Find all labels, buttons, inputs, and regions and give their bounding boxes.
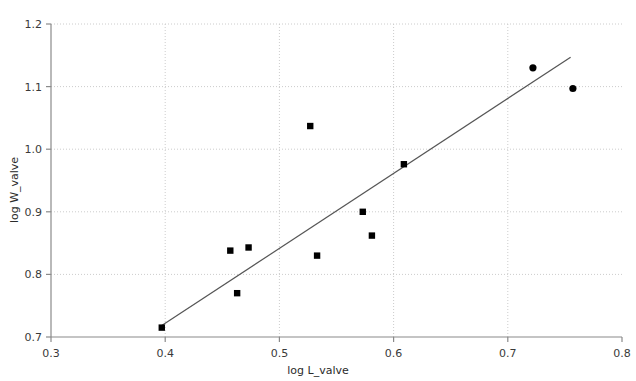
y-axis-title: log W_valve — [8, 157, 21, 223]
y-tick-label: 0.9 — [25, 206, 43, 219]
axis-tick-labels: 0.70.80.91.01.11.20.30.40.50.60.70.8 — [25, 18, 631, 360]
y-tick-label: 1.2 — [25, 18, 43, 31]
data-point-square — [401, 161, 407, 167]
data-point-square — [360, 209, 366, 215]
x-tick-label: 0.4 — [156, 347, 174, 360]
x-tick-label: 0.5 — [271, 347, 289, 360]
data-point-square — [234, 290, 240, 296]
data-point-square — [314, 252, 320, 258]
data-point-circle — [569, 85, 576, 92]
trend-line — [161, 57, 571, 326]
trend-line-segment — [161, 57, 571, 326]
x-tick-label: 0.6 — [385, 347, 403, 360]
data-points — [159, 64, 577, 331]
x-tick-label: 0.3 — [42, 347, 60, 360]
axis-lines — [51, 24, 622, 337]
x-tick-label: 0.7 — [499, 347, 517, 360]
axis-ticks — [46, 24, 622, 342]
y-tick-label: 0.7 — [25, 331, 43, 344]
y-tick-label: 1.0 — [25, 143, 43, 156]
y-tick-label: 1.1 — [25, 81, 43, 94]
grid-lines — [51, 24, 622, 337]
data-point-circle — [529, 64, 536, 71]
plot-area: 0.70.80.91.01.11.20.30.40.50.60.70.8 log… — [0, 0, 636, 381]
data-point-square — [159, 324, 165, 330]
y-tick-label: 0.8 — [25, 268, 43, 281]
data-point-square — [245, 244, 251, 250]
x-tick-label: 0.8 — [613, 347, 631, 360]
x-axis-title: log L_valve — [287, 364, 349, 377]
data-point-square — [307, 123, 313, 129]
scatter-chart: 0.70.80.91.01.11.20.30.40.50.60.70.8 log… — [0, 0, 636, 381]
data-point-square — [369, 232, 375, 238]
data-point-square — [227, 247, 233, 253]
